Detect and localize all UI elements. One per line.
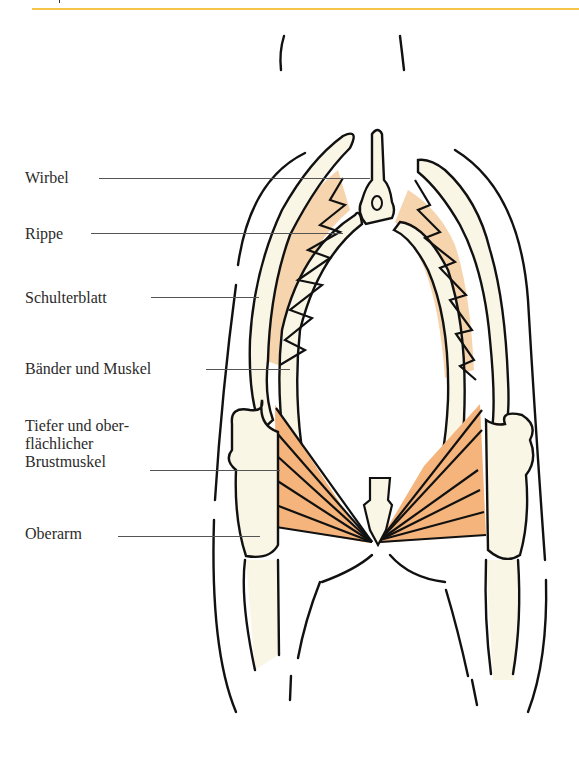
humerus-right <box>486 414 533 559</box>
leader-brustmuskel <box>150 470 280 471</box>
label-baender-und-muskel: Bänder und Muskel <box>25 361 151 377</box>
label-wirbel: Wirbel <box>25 170 69 186</box>
thorax-cross-section-illustration <box>0 0 579 758</box>
leader-rippe <box>91 233 343 234</box>
label-brustmuskel-line2: flächlicher <box>25 436 93 452</box>
neck-outline-left <box>280 36 284 70</box>
label-brustmuskel-line1: Tiefer und ober- <box>25 418 129 434</box>
label-schulterblatt: Schulterblatt <box>25 290 107 306</box>
leader-wirbel <box>99 178 370 179</box>
label-oberarm: Oberarm <box>25 526 82 542</box>
label-brustmuskel-line3: Brustmuskel <box>25 454 106 470</box>
leader-baender-und-muskel <box>206 369 290 370</box>
neck-outline-right <box>400 36 404 70</box>
label-rippe: Rippe <box>25 226 63 242</box>
leader-schulterblatt <box>151 297 259 298</box>
leader-oberarm <box>118 536 260 537</box>
